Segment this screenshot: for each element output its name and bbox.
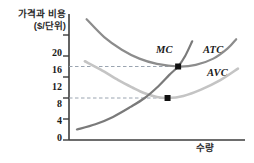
curve-mc [77,41,192,129]
plot-area [0,0,254,163]
cost-curves-figure: 가격과 비용 ($/단위) 20 16 12 8 4 0 MC ATC AVC … [0,0,254,163]
axes-group [63,14,245,140]
marker-mc-avc-minimum [165,95,171,101]
marker-mc-atc-minimum [175,64,181,70]
curve-atc [87,19,237,66]
curves-group [77,19,238,129]
annotation-markers [165,64,182,102]
y-axis-ticks [63,35,69,140]
